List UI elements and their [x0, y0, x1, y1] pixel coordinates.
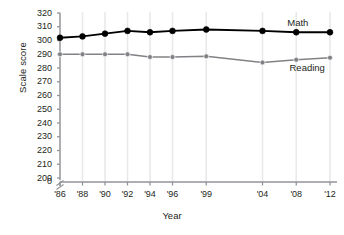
x-tick-label-94: '94: [144, 190, 156, 199]
y-tick-label-220: 220: [26, 146, 52, 155]
x-tick-label-12: '12: [324, 190, 336, 199]
data-point-math-90: [102, 31, 108, 37]
data-point-math-04: [260, 28, 266, 34]
data-point-math-12: [327, 29, 333, 35]
y-tick-label-290: 290: [26, 50, 52, 59]
series-label-math: Math: [287, 17, 308, 28]
y-tick-label-270: 270: [26, 77, 52, 86]
y-tick-label-250: 250: [26, 105, 52, 114]
y-tick-label-320: 320: [26, 9, 52, 18]
data-point-math-96: [170, 28, 176, 34]
data-point-reading-99: [204, 54, 209, 59]
x-tick-label-08: '08: [290, 190, 302, 199]
data-point-math-99: [203, 27, 209, 33]
data-point-math-92: [125, 28, 131, 34]
data-point-math-88: [80, 33, 86, 39]
y-tick-label-230: 230: [26, 132, 52, 141]
data-point-math-86: [57, 35, 63, 41]
y-tick-label-0: 0: [26, 177, 52, 186]
data-point-reading-90: [103, 52, 108, 57]
series-line-math: [60, 30, 330, 38]
x-tick-label-92: '92: [122, 190, 134, 199]
line-chart: Scale score Year 20021022023024025026027…: [0, 0, 344, 235]
data-point-reading-86: [58, 52, 63, 57]
x-tick-label-04: '04: [257, 190, 269, 199]
y-tick-label-240: 240: [26, 119, 52, 128]
y-tick-label-300: 300: [26, 36, 52, 45]
data-point-reading-12: [328, 55, 333, 60]
y-tick-label-310: 310: [26, 22, 52, 31]
data-point-reading-96: [170, 55, 175, 60]
x-tick-label-99: '99: [200, 190, 212, 199]
x-tick-label-90: '90: [99, 190, 111, 199]
data-point-math-08: [293, 29, 299, 35]
y-tick-label-210: 210: [26, 160, 52, 169]
data-point-reading-88: [80, 52, 85, 57]
series-label-reading: Reading: [290, 62, 325, 73]
data-point-math-94: [147, 29, 153, 35]
x-tick-label-96: '96: [167, 190, 179, 199]
data-point-reading-94: [148, 55, 153, 60]
x-axis-title: Year: [0, 210, 344, 221]
x-tick-label-88: '88: [77, 190, 89, 199]
y-tick-label-280: 280: [26, 64, 52, 73]
y-tick-label-260: 260: [26, 91, 52, 100]
x-tick-label-86: '86: [54, 190, 66, 199]
data-point-reading-92: [125, 52, 130, 57]
data-point-reading-04: [260, 60, 265, 65]
